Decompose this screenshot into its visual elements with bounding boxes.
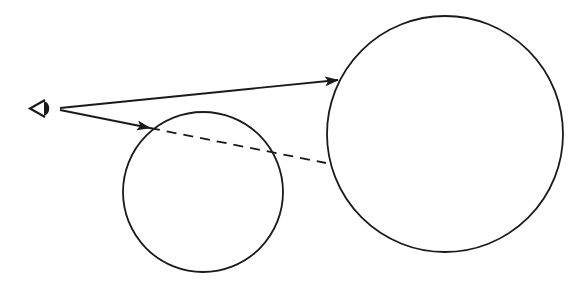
diagram-canvas: [0, 0, 586, 284]
occluded-ray: [150, 128, 326, 163]
ray-to-small-circle: [60, 110, 150, 128]
ray-to-large-circle: [60, 80, 338, 108]
eye-icon: [30, 100, 49, 117]
large-circle: [327, 16, 563, 252]
small-circle: [123, 112, 283, 272]
